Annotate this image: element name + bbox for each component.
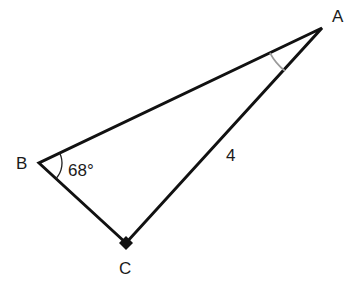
triangle-abc bbox=[39, 28, 322, 243]
triangle-figure bbox=[0, 0, 355, 285]
vertex-label-b: B bbox=[16, 155, 27, 172]
angle-b-label: 68° bbox=[68, 162, 94, 179]
side-ac-label: 4 bbox=[226, 147, 235, 164]
angle-arc-a bbox=[270, 53, 285, 71]
vertex-label-c: C bbox=[119, 260, 131, 277]
triangle-diagram: A B C 68° 4 bbox=[0, 0, 355, 285]
vertex-label-a: A bbox=[332, 8, 343, 25]
angle-arc-b bbox=[56, 153, 62, 179]
